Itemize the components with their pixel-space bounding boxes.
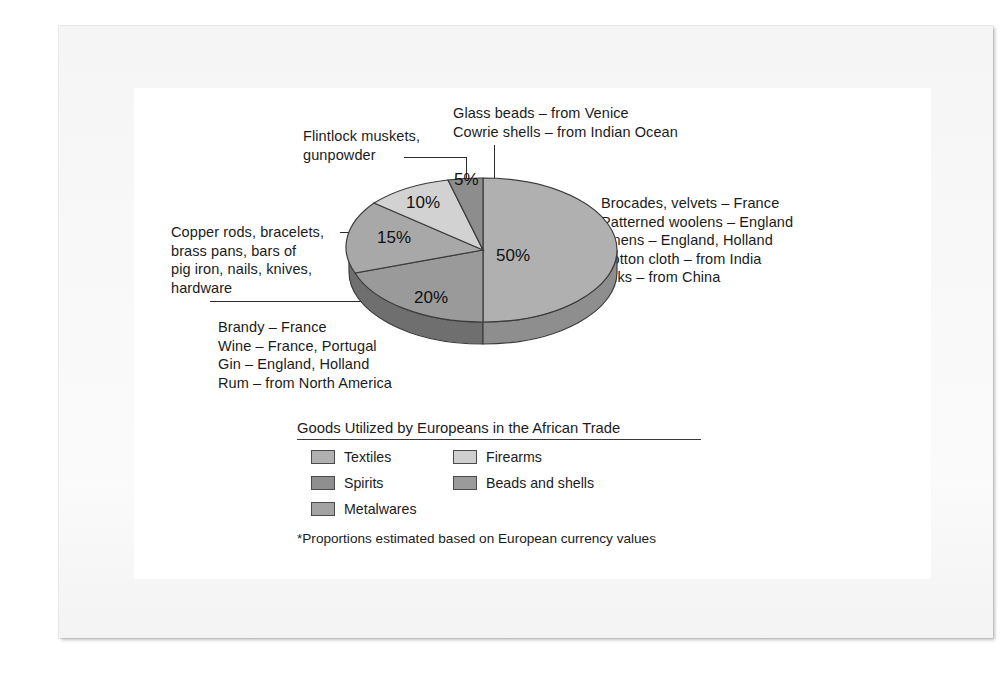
legend-swatch-spirits [311, 476, 335, 490]
pie-label-beads-and-shells: 5% [454, 170, 479, 190]
legend-label-textiles: Textiles [344, 449, 391, 465]
page-backdrop: Glass beads – from Venice Cowrie shells … [0, 0, 1005, 689]
legend-item-beads-and-shells: Beads and shells [453, 475, 594, 491]
legend-items: Textiles Spirits Metalwares Firearms Bea… [297, 447, 717, 523]
legend-item-firearms: Firearms [453, 449, 542, 465]
chart-legend: Goods Utilized by Europeans in the Afric… [297, 420, 717, 546]
legend-swatch-metalwares [311, 502, 335, 516]
pie-chart: 50% 20% 15% 10% 5% [338, 168, 628, 383]
annotation-beads-and-shells: Glass beads – from Venice Cowrie shells … [453, 104, 678, 141]
pie-label-textiles: 50% [496, 246, 530, 266]
legend-swatch-beads-and-shells [453, 476, 477, 490]
legend-title: Goods Utilized by Europeans in the Afric… [297, 420, 701, 440]
pie-chart-svg [338, 168, 628, 383]
legend-label-metalwares: Metalwares [344, 501, 417, 517]
legend-label-beads-and-shells: Beads and shells [486, 475, 594, 491]
pie-label-firearms: 10% [406, 193, 440, 213]
leader-line-firearms-horizontal [404, 157, 467, 158]
legend-label-firearms: Firearms [486, 449, 542, 465]
legend-item-metalwares: Metalwares [311, 501, 417, 517]
legend-label-spirits: Spirits [344, 475, 383, 491]
legend-footnote: *Proportions estimated based on European… [297, 531, 717, 546]
annotation-metalwares: Copper rods, bracelets, brass pans, bars… [171, 223, 324, 297]
annotation-firearms: Flintlock muskets, gunpowder [303, 127, 420, 164]
legend-swatch-textiles [311, 450, 335, 464]
pie-top-face [346, 178, 617, 322]
legend-swatch-firearms [453, 450, 477, 464]
legend-item-textiles: Textiles [311, 449, 391, 465]
pie-label-metalwares: 15% [377, 228, 411, 248]
pie-label-spirits: 20% [414, 288, 448, 308]
legend-item-spirits: Spirits [311, 475, 383, 491]
annotation-textiles: Brocades, velvets – France Patterned woo… [601, 194, 793, 287]
